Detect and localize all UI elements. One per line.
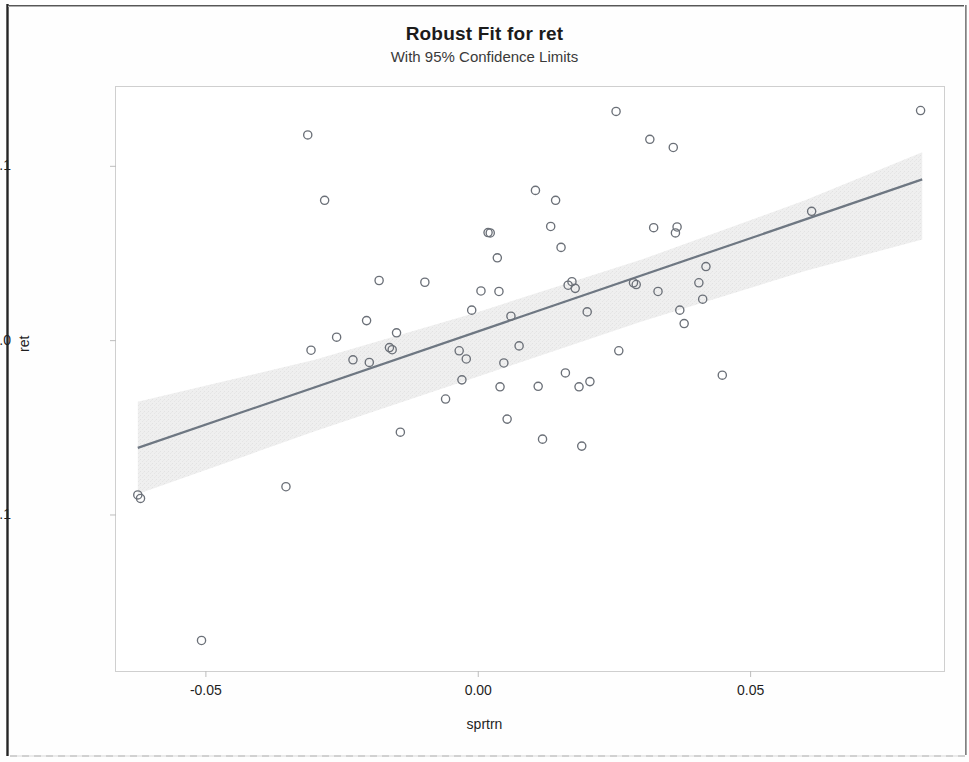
scatter-point [646,135,654,143]
scatter-point [650,224,658,232]
page-edge-top [8,5,964,7]
x-tick-label: -0.05 [166,682,246,698]
scatter-point [557,243,565,251]
scatter-point [561,369,569,377]
scatter-point [321,196,329,204]
scatter-point [307,346,315,354]
scatter-point [304,131,312,139]
confidence-band-shape [138,152,922,494]
scatter-point [468,306,476,314]
scatter-point [916,106,924,114]
scatter-point [392,329,400,337]
x-axis-title: sprtrn [0,716,969,732]
scatter-point [534,382,542,390]
y-tick-label: -0.1 [0,506,11,522]
confidence-band [138,152,922,494]
scatter-point [531,186,539,194]
page-edge-left [6,4,9,756]
y-tick-label: 0.0 [0,332,11,348]
fit-line-path [138,179,922,447]
scatter-point [680,319,688,327]
scatter-point [547,222,555,230]
scatter-point [578,442,586,450]
scatter-point [718,371,726,379]
scatter-point [493,254,501,262]
scatter-point [333,333,341,341]
scatter-point [197,636,205,644]
scatter-point [586,378,594,386]
y-tick-label: 0.1 [0,157,11,173]
scatter-point [503,415,511,423]
scatter-point [669,143,677,151]
scatter-point [612,107,620,115]
scatter-point [441,395,449,403]
scatter-point [421,278,429,286]
fit-line [138,179,922,447]
plot-area [115,86,945,672]
scatter-point [282,483,290,491]
x-tick-label: 0.05 [711,682,791,698]
chart-title: Robust Fit for ret [0,22,969,46]
y-axis-title: ret [16,336,32,352]
scatter-point [575,383,583,391]
scatter-point [375,276,383,284]
scatter-point [477,287,485,295]
scan-artifact-line [10,755,965,757]
scatter-point [362,317,370,325]
scatter-point [552,196,560,204]
page-edge-right [965,5,967,755]
chart-subtitle: With 95% Confidence Limits [0,47,969,67]
title-block: Robust Fit for ret With 95% Confidence L… [0,22,969,67]
scatter-point [495,287,503,295]
scatter-point [538,435,546,443]
scatter-point [496,383,504,391]
scatter-point [396,428,404,436]
x-tick-label: 0.00 [438,682,518,698]
scatter-plot-svg [116,87,944,671]
scanned-page: Robust Fit for ret With 95% Confidence L… [0,0,969,762]
scatter-point [615,347,623,355]
